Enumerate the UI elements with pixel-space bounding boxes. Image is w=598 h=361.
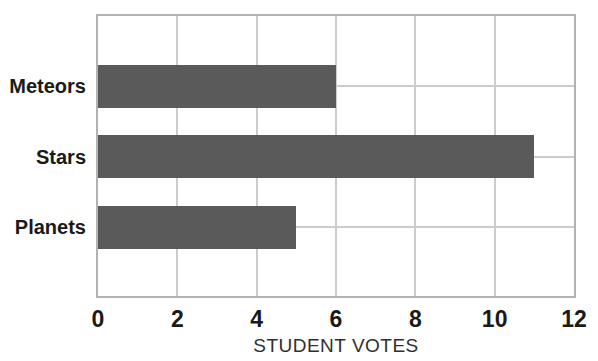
- bar-meteors: [98, 65, 336, 108]
- category-label-stars: Stars: [0, 145, 86, 169]
- x-tick-label-2: 2: [171, 306, 184, 332]
- category-label-planets: Planets: [0, 215, 86, 239]
- x-tick-label-0: 0: [92, 306, 105, 332]
- x-tick-label-8: 8: [409, 306, 422, 332]
- x-tick-label-6: 6: [330, 306, 343, 332]
- x-tick-label-4: 4: [250, 306, 263, 332]
- x-tick-label-10: 10: [482, 306, 508, 332]
- plot-area: [96, 14, 576, 298]
- bar-chart-figure: MeteorsStarsPlanets 024681012 STUDENT VO…: [0, 0, 598, 361]
- x-axis-title: STUDENT VOTES: [96, 334, 576, 358]
- bar-planets: [98, 206, 296, 249]
- x-axis-tick-labels: 024681012: [0, 306, 598, 334]
- category-label-meteors: Meteors: [0, 74, 86, 98]
- x-tick-label-12: 12: [561, 306, 587, 332]
- bar-stars: [98, 135, 534, 178]
